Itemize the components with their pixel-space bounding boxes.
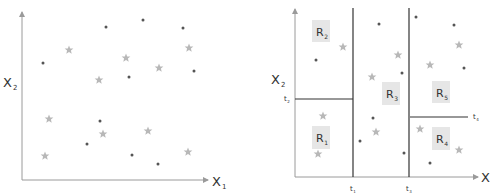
star-marker-icon xyxy=(65,45,74,53)
right-x-axis-label: X xyxy=(481,170,490,185)
star-marker-icon xyxy=(426,60,435,68)
dot-marker-icon xyxy=(429,162,432,165)
diagram-canvas: X1 X2 R2 R1 R3 R5 R4 t2 t1 t3 t4 X X2 xyxy=(0,0,492,194)
dot-marker-icon xyxy=(157,163,160,166)
star-marker-icon xyxy=(372,127,381,135)
dot-marker-icon xyxy=(453,24,456,27)
star-marker-icon xyxy=(319,111,328,119)
dot-marker-icon xyxy=(142,19,145,22)
star-marker-icon xyxy=(155,63,164,71)
dot-marker-icon xyxy=(42,62,45,65)
dot-marker-icon xyxy=(131,154,134,157)
star-marker-icon xyxy=(122,53,131,61)
star-marker-icon xyxy=(416,124,425,132)
dot-marker-icon xyxy=(415,16,418,19)
star-marker-icon xyxy=(339,42,348,50)
star-marker-icon xyxy=(95,75,104,83)
threshold-t3-label: t3 xyxy=(406,185,412,194)
star-marker-icon xyxy=(455,40,464,48)
right-y-axis-label: X2 xyxy=(271,72,285,89)
threshold-t4-label: t4 xyxy=(473,113,479,122)
left-scatter-plot: X1 X2 xyxy=(3,12,226,191)
left-y-axis-label: X2 xyxy=(3,75,17,92)
dot-marker-icon xyxy=(401,72,404,75)
dot-marker-icon xyxy=(463,67,466,70)
star-marker-icon xyxy=(45,114,54,122)
dot-marker-icon xyxy=(403,152,406,155)
dot-marker-icon xyxy=(105,26,108,29)
dot-marker-icon xyxy=(378,23,381,26)
star-marker-icon xyxy=(99,129,108,137)
star-marker-icon xyxy=(185,43,194,51)
dot-marker-icon xyxy=(128,76,131,79)
star-marker-icon xyxy=(41,151,50,159)
dot-marker-icon xyxy=(86,143,89,146)
threshold-t1-label: t1 xyxy=(350,185,356,194)
star-marker-icon xyxy=(394,50,403,58)
dot-marker-icon xyxy=(315,59,318,62)
star-marker-icon xyxy=(314,149,323,157)
dot-marker-icon xyxy=(182,27,185,30)
dot-marker-icon xyxy=(193,70,196,73)
dot-marker-icon xyxy=(359,140,362,143)
dot-marker-icon xyxy=(99,120,102,123)
star-marker-icon xyxy=(368,72,377,80)
right-partition-plot: R2 R1 R3 R5 R4 t2 t1 t3 t4 X X2 xyxy=(271,8,490,194)
left-x-axis-label: X1 xyxy=(212,174,226,191)
dot-marker-icon xyxy=(372,117,375,120)
star-marker-icon xyxy=(144,126,153,134)
threshold-t2-label: t2 xyxy=(284,95,290,104)
left-points xyxy=(41,19,196,166)
star-marker-icon xyxy=(455,145,464,153)
star-marker-icon xyxy=(184,147,193,155)
